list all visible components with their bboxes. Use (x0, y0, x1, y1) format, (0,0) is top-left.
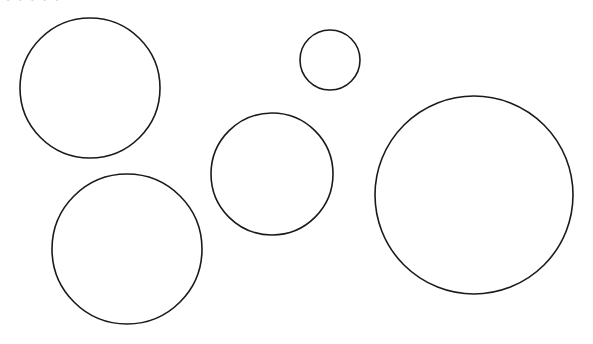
circle-d (52, 174, 202, 324)
circle-c (211, 113, 333, 235)
circles-figure (0, 0, 593, 344)
circle-e (375, 96, 573, 294)
circle-b (300, 30, 360, 90)
figure-canvas: · ı · ı · ı · ı · ı (0, 0, 593, 344)
circle-a (20, 18, 160, 158)
